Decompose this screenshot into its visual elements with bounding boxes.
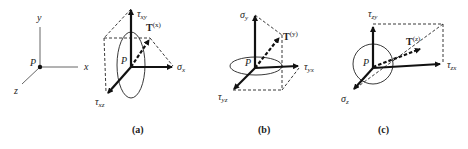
dash-line: [282, 68, 299, 90]
origin-label: P: [120, 55, 127, 66]
stress-traction-diagram: y x z P P τxy T(x) σx τxz (a) P σy T(y): [0, 0, 468, 149]
shear-zx-arrow: [373, 64, 440, 68]
y-axis-label: y: [36, 12, 42, 23]
normal-y-label: σy: [240, 9, 249, 22]
dash-line: [255, 15, 282, 35]
traction-z-arrow: [373, 49, 420, 67]
caption-c: (c): [378, 124, 389, 136]
traction-y-arrow: [255, 38, 279, 68]
traction-x-arrow: [131, 40, 149, 67]
shear-zy-label: τzy: [368, 8, 378, 21]
z-axis-line: [22, 67, 40, 84]
shear-yx-arrow: [255, 66, 298, 68]
x-axis-label: x: [83, 61, 89, 72]
normal-z-label: σz: [341, 93, 349, 106]
shear-yx-label: τyx: [304, 61, 315, 74]
reference-axes: y x z P: [13, 12, 89, 96]
shear-xz-label: τxz: [95, 96, 105, 109]
shear-yz-arrow: [234, 68, 255, 89]
panel-a: P τxy T(x) σx τxz (a): [95, 8, 186, 136]
normal-z-arrow: [354, 68, 373, 89]
shear-yz-label: τyz: [218, 91, 228, 104]
panel-b: P σy T(y) τyx τyz (b): [218, 9, 315, 136]
traction-y-label: T(y): [283, 30, 299, 42]
traction-x-label: T(x): [146, 21, 162, 33]
origin-point: [38, 65, 42, 69]
dash-line: [104, 38, 106, 92]
origin-label: P: [244, 57, 251, 68]
shear-zx-label: τzx: [447, 59, 457, 72]
origin-label: P: [362, 57, 369, 68]
z-axis-label: z: [13, 85, 18, 96]
origin-label: P: [29, 57, 36, 68]
shear-xy-label: τxy: [137, 8, 148, 21]
normal-x-label: σx: [177, 61, 186, 74]
panel-c: P τzy T(z) τzx σz (c): [341, 8, 457, 136]
caption-a: (a): [132, 124, 144, 136]
caption-b: (b): [258, 124, 270, 136]
dash-line: [150, 38, 173, 66]
shear-xz-arrow: [108, 67, 131, 93]
